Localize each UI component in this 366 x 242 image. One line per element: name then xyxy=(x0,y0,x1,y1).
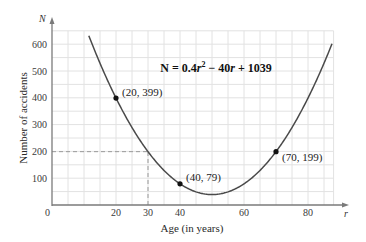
y-tick-label: 100 xyxy=(32,173,47,184)
y-tick-label: 400 xyxy=(32,92,47,103)
point-label: (70, 199) xyxy=(282,151,323,164)
x-tick-label: 40 xyxy=(175,207,185,218)
x-tick-label: 60 xyxy=(239,207,249,218)
accident-chart: 2030406080100200300400500600 N r 0 Age (… xyxy=(0,0,366,242)
x-axis-label: Age (in years) xyxy=(161,222,224,235)
point-label: (40, 79) xyxy=(186,171,221,184)
x-axis-variable: r xyxy=(344,208,348,219)
data-points: (20, 399)(40, 79)(70, 199) xyxy=(113,86,322,186)
x-tick-label: 20 xyxy=(111,207,121,218)
data-point xyxy=(177,181,182,186)
point-label: (20, 399) xyxy=(122,86,163,99)
equation-label: N = 0.4r2 − 40r + 1039 xyxy=(160,60,272,75)
origin-label: 0 xyxy=(45,207,50,218)
data-point xyxy=(113,95,118,100)
y-tick-label: 300 xyxy=(32,119,47,130)
y-axis-label: Number of accidents xyxy=(17,72,29,164)
y-axis-arrow-icon xyxy=(50,17,55,24)
y-axis-variable: N xyxy=(38,13,47,24)
y-tick-label: 200 xyxy=(32,146,47,157)
x-tick-label: 80 xyxy=(303,207,313,218)
x-tick-label: 30 xyxy=(143,207,153,218)
y-tick-label: 500 xyxy=(32,66,47,77)
x-axis-arrow-icon xyxy=(342,203,349,208)
data-point xyxy=(273,149,278,154)
y-tick-label: 600 xyxy=(32,39,47,50)
